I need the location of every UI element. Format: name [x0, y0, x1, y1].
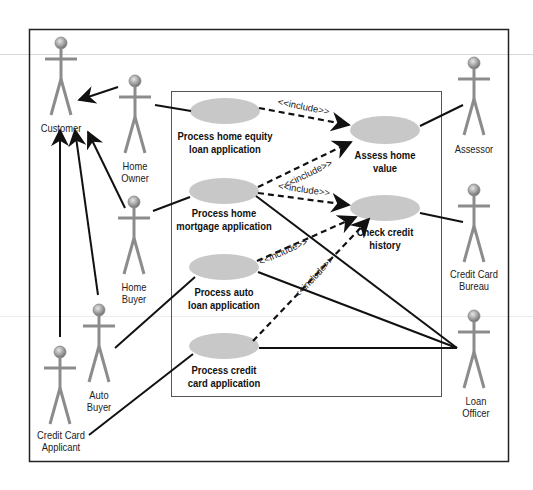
- actor-label-line: Owner: [121, 172, 149, 184]
- actor-label-home-buyer: Home Buyer: [122, 281, 147, 305]
- actor-label-line: Credit Card: [450, 268, 498, 280]
- actor-label-assessor: Assessor: [455, 143, 493, 155]
- usecase-label-check-credit-history: Check credit history: [357, 226, 414, 252]
- actor-loan-officer-icon: [458, 310, 490, 388]
- actor-label-line: Bureau: [450, 280, 498, 292]
- usecase-label-line: Process home equity: [178, 130, 273, 143]
- usecase-assess-home-value-ellipse: [350, 116, 420, 144]
- actor-label-home-owner: Home Owner: [121, 160, 149, 184]
- usecase-process-home-mortgage-ellipse: [189, 178, 259, 204]
- usecase-label-line: card application: [188, 377, 260, 390]
- actor-label-auto-buyer: Auto Buyer: [87, 389, 111, 413]
- usecase-process-home-equity-ellipse: [190, 98, 260, 124]
- usecase-label-process-credit-card: Process credit card application: [188, 364, 260, 390]
- usecase-label-process-home-mortgage: Process home mortgage application: [176, 207, 271, 233]
- actor-credit-card-bureau-icon: [458, 184, 490, 262]
- actor-home-owner-icon: [119, 75, 151, 153]
- usecase-label-line: loan application: [188, 299, 260, 312]
- actor-label-credit-card-applicant: Credit Card Applicant: [37, 429, 85, 453]
- actor-label-line: Applicant: [37, 441, 85, 453]
- usecase-label-line: loan application: [178, 143, 273, 156]
- usecase-label-process-home-equity: Process home equity loan application: [178, 130, 273, 156]
- actor-label-line: Assessor: [455, 143, 493, 155]
- actor-label-line: Auto: [87, 389, 111, 401]
- actor-label-customer: Customer: [41, 122, 82, 134]
- use-case-diagram: <<include>> <<include>> <<include>> <<in…: [0, 0, 533, 490]
- usecase-label-line: Assess home: [355, 149, 416, 162]
- usecase-label-line: Process auto: [188, 286, 260, 299]
- actor-label-loan-officer: Loan Officer: [462, 395, 489, 419]
- actor-label-line: Credit Card: [37, 429, 85, 441]
- actor-label-line: Customer: [41, 122, 82, 134]
- actor-label-line: Buyer: [122, 293, 147, 305]
- usecase-check-credit-history-ellipse: [350, 195, 420, 221]
- usecase-process-credit-card-ellipse: [189, 333, 259, 359]
- usecase-label-line: mortgage application: [176, 220, 271, 233]
- usecase-label-line: Check credit: [357, 226, 414, 239]
- actor-home-buyer-icon: [118, 196, 150, 274]
- actor-auto-buyer-icon: [83, 304, 115, 382]
- actor-label-line: Buyer: [87, 401, 111, 413]
- diagram-canvas: [0, 0, 533, 490]
- actor-assessor-icon: [458, 57, 490, 135]
- actor-credit-card-applicant-icon: [44, 346, 76, 424]
- actor-customer-icon: [45, 37, 77, 115]
- usecase-label-process-auto-loan: Process auto loan application: [188, 286, 260, 312]
- actor-label-credit-card-bureau: Credit Card Bureau: [450, 268, 498, 292]
- actor-label-line: Loan: [462, 395, 489, 407]
- usecase-label-line: value: [355, 162, 416, 175]
- usecase-label-line: Process home: [176, 207, 271, 220]
- actor-label-line: Home: [121, 160, 149, 172]
- actor-label-line: Home: [122, 281, 147, 293]
- usecase-label-line: history: [357, 239, 414, 252]
- usecase-process-auto-loan-ellipse: [189, 254, 259, 280]
- usecase-label-line: Process credit: [188, 364, 260, 377]
- actor-label-line: Officer: [462, 407, 489, 419]
- usecase-label-assess-home-value: Assess home value: [355, 149, 416, 175]
